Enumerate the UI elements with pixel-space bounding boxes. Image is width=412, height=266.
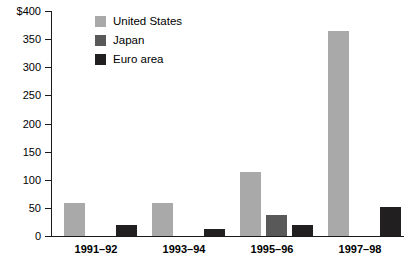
y-axis-tick-label: 50 bbox=[29, 202, 41, 213]
x-axis-line bbox=[51, 236, 404, 237]
bar-chart: 050100150200250300350$400 1991–921993–94… bbox=[0, 0, 412, 266]
bar bbox=[204, 229, 225, 236]
bar bbox=[116, 225, 137, 236]
y-axis-tick bbox=[45, 208, 51, 209]
y-axis-tick-label: 300 bbox=[23, 62, 41, 73]
y-axis-tick-label: 150 bbox=[23, 146, 41, 157]
y-axis-tick bbox=[45, 11, 51, 12]
y-axis-tick bbox=[45, 67, 51, 68]
chart-legend: United StatesJapanEuro area bbox=[95, 12, 182, 69]
y-axis-tick bbox=[45, 180, 51, 181]
bar bbox=[240, 172, 261, 236]
y-axis-tick-label: 0 bbox=[35, 231, 41, 242]
bar bbox=[328, 31, 349, 236]
legend-item: Euro area bbox=[95, 50, 182, 69]
x-axis-category-label: 1991–92 bbox=[75, 243, 118, 255]
y-axis-tick-label: 250 bbox=[23, 90, 41, 101]
y-axis-tick bbox=[45, 236, 51, 237]
bar bbox=[266, 215, 287, 236]
y-axis-tick-label: 350 bbox=[23, 34, 41, 45]
y-axis-tick bbox=[45, 39, 51, 40]
x-axis-category-label: 1993–94 bbox=[163, 243, 206, 255]
legend-item: United States bbox=[95, 12, 182, 31]
y-axis-tick bbox=[45, 95, 51, 96]
legend-item-label: Japan bbox=[113, 35, 144, 47]
legend-swatch-icon bbox=[95, 35, 106, 46]
x-axis-category-label: 1997–98 bbox=[339, 243, 382, 255]
y-axis-tick bbox=[45, 124, 51, 125]
y-axis-tick-label: 100 bbox=[23, 174, 41, 185]
legend-swatch-icon bbox=[95, 16, 106, 27]
legend-item: Japan bbox=[95, 31, 182, 50]
legend-item-label: United States bbox=[113, 16, 182, 28]
legend-swatch-icon bbox=[95, 54, 106, 65]
bar bbox=[380, 207, 401, 236]
bar bbox=[292, 225, 313, 236]
bar bbox=[64, 203, 85, 236]
x-axis-category-label: 1995–96 bbox=[251, 243, 294, 255]
y-axis-tick-label: 200 bbox=[23, 118, 41, 129]
y-axis-tick bbox=[45, 152, 51, 153]
y-axis-tick-label: $400 bbox=[17, 6, 41, 17]
bar bbox=[152, 203, 173, 236]
legend-item-label: Euro area bbox=[113, 54, 164, 66]
